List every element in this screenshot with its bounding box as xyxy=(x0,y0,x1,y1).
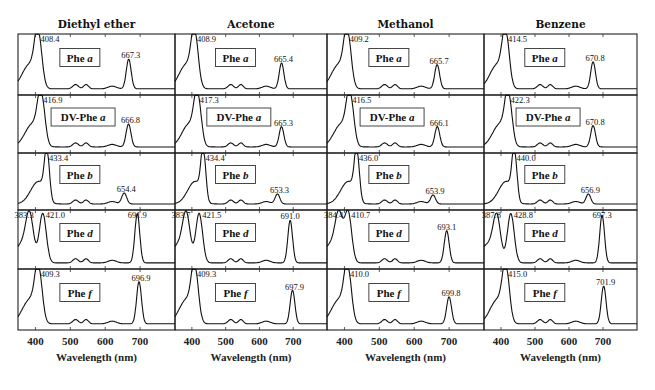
compound-label: Phe d xyxy=(532,227,558,239)
x-axis-title: Wavelength (nm) xyxy=(211,351,292,364)
x-tick-label: 700 xyxy=(441,335,458,347)
x-tick-label: 400 xyxy=(184,335,201,347)
compound-name: Phe xyxy=(376,52,396,64)
peak-label: 421.5 xyxy=(202,210,221,220)
peak-label: 666.1 xyxy=(430,118,449,128)
column-3: Benzene414.5670.8Phe a422.3670.8DV-Phe a… xyxy=(482,18,637,364)
compound-name: Phe xyxy=(67,227,87,239)
peak-label: 410.7 xyxy=(351,210,370,220)
compound-name: Phe xyxy=(67,52,87,64)
compound-variant: d xyxy=(396,227,402,239)
compound-variant: a xyxy=(100,111,106,123)
compound-label: Phe d xyxy=(223,227,249,239)
spectrum-panel: 384.4410.7693.1Phe d xyxy=(324,210,484,269)
x-tick-label: 400 xyxy=(493,335,510,347)
peak-label: 409.2 xyxy=(350,34,369,44)
compound-label: Phe b xyxy=(376,169,402,181)
peak-label: 421.0 xyxy=(46,210,65,220)
compound-name: Phe xyxy=(376,227,396,239)
column-1: Acetone408.9665.4Phe a417.3665.3DV-Phe a… xyxy=(171,18,327,364)
spectrum-panel: 409.2665.7Phe a xyxy=(327,34,484,95)
peak-label: 414.5 xyxy=(508,34,527,44)
spectrum-panel: 434.4653.3Phe b xyxy=(175,153,327,210)
peak-label: 434.4 xyxy=(206,153,226,163)
x-axis-title: Wavelength (nm) xyxy=(365,351,446,364)
compound-label: DV-Phe a xyxy=(370,111,415,123)
column-2: Methanol409.2665.7Phe a416.5666.1DV-Phe … xyxy=(324,18,484,364)
x-tick-label: 600 xyxy=(251,335,268,347)
spectrum-panel: 416.9666.8DV-Phe a xyxy=(18,95,175,153)
compound-name: DV-Phe xyxy=(61,111,100,123)
compound-label: Phe d xyxy=(67,227,93,239)
compound-variant: d xyxy=(552,227,558,239)
spectrum-panel: 416.5666.1DV-Phe a xyxy=(327,95,484,153)
compound-variant: a xyxy=(396,52,402,64)
compound-label: Phe a xyxy=(223,52,249,64)
compound-label: Phe b xyxy=(223,169,249,181)
x-tick-label: 500 xyxy=(62,335,79,347)
peak-label: 670.8 xyxy=(586,53,605,63)
compound-label: Phe f xyxy=(533,287,558,299)
peak-label: 433.4 xyxy=(49,153,69,163)
spectrum-panel: 409.3696.9Phe f xyxy=(18,269,175,330)
column-title: Benzene xyxy=(535,18,585,30)
spectrum-panel: 440.0656.9Phe b xyxy=(484,153,637,210)
spectrum-panel: 415.0701.9Phe f xyxy=(484,269,637,330)
peak-label: 410.0 xyxy=(350,269,369,279)
peak-label: 428.8 xyxy=(514,210,533,220)
compound-variant: a xyxy=(552,52,558,64)
peak-label: 417.3 xyxy=(200,95,219,105)
compound-name: DV-Phe xyxy=(370,111,409,123)
spectrum-panel: 408.4667.3Phe a xyxy=(18,34,175,95)
compound-name: Phe xyxy=(223,52,243,64)
compound-label: Phe f xyxy=(377,287,402,299)
compound-variant: a xyxy=(409,111,415,123)
peak-label: 383.3 xyxy=(15,210,34,220)
compound-variant: d xyxy=(87,227,93,239)
compound-variant: d xyxy=(243,227,249,239)
x-axis-title: Wavelength (nm) xyxy=(520,351,601,364)
spectrum-panel: 383.3421.0691.9Phe d xyxy=(15,210,175,269)
compound-variant: b xyxy=(396,169,402,181)
peak-label: 383.7 xyxy=(171,210,190,220)
compound-name: Phe xyxy=(68,287,88,299)
spectrum-panel: 422.3670.8DV-Phe a xyxy=(484,95,637,153)
compound-variant: b xyxy=(552,169,558,181)
compound-label: Phe b xyxy=(67,169,93,181)
compound-name: Phe xyxy=(532,169,552,181)
x-tick-label: 400 xyxy=(336,335,353,347)
peak-label: 409.3 xyxy=(41,269,60,279)
column-title: Methanol xyxy=(377,18,433,30)
peak-label: 691.0 xyxy=(281,211,300,221)
compound-label: Phe a xyxy=(532,52,558,64)
compound-name: Phe xyxy=(67,169,87,181)
compound-variant: a xyxy=(243,52,249,64)
column-0: Diethyl ether408.4667.3Phe a416.9666.8DV… xyxy=(15,18,175,364)
compound-variant: b xyxy=(87,169,93,181)
compound-label: Phe f xyxy=(223,287,248,299)
compound-name: Phe xyxy=(532,52,552,64)
spectrum-panel: 410.0699.8Phe f xyxy=(327,269,484,330)
peak-label: 665.7 xyxy=(430,56,449,66)
compound-name: DV-Phe xyxy=(526,111,565,123)
peak-label: 701.9 xyxy=(596,277,615,287)
spectrum-panel: 414.5670.8Phe a xyxy=(484,34,637,95)
x-tick-label: 400 xyxy=(27,335,44,347)
compound-name: Phe xyxy=(532,227,552,239)
spectrum-panel: 408.9665.4Phe a xyxy=(175,34,327,95)
compound-name: Phe xyxy=(223,227,243,239)
peak-label: 422.3 xyxy=(511,95,530,105)
peak-label: 697.9 xyxy=(285,282,304,292)
peak-label: 387.8 xyxy=(482,210,501,220)
peak-label: 670.8 xyxy=(586,117,605,127)
spectrum-panel: 387.8428.8697.3Phe d xyxy=(482,210,637,269)
peak-label: 654.4 xyxy=(117,184,137,194)
x-tick-label: 600 xyxy=(561,335,578,347)
x-tick-label: 700 xyxy=(285,335,302,347)
peak-label: 666.8 xyxy=(121,115,140,125)
x-axis-title: Wavelength (nm) xyxy=(56,351,137,364)
peak-label: 691.9 xyxy=(128,210,147,220)
peak-label: 653.3 xyxy=(270,185,289,195)
x-tick-label: 700 xyxy=(595,335,612,347)
peak-label: 665.3 xyxy=(274,118,293,128)
